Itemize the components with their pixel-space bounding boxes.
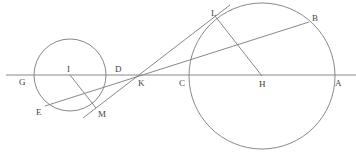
tangent-line [83, 5, 230, 118]
label-I: I [67, 64, 70, 74]
label-D: D [115, 64, 122, 74]
label-E: E [36, 107, 42, 117]
label-L: L [211, 8, 217, 18]
label-H: H [259, 79, 266, 89]
label-A: A [335, 78, 342, 88]
radius-HL [215, 16, 262, 76]
label-C: C [179, 78, 185, 88]
label-K: K [138, 78, 145, 88]
label-B: B [312, 13, 318, 23]
label-M: M [98, 109, 106, 119]
geometry-diagram: G I D K C H A L B E M [0, 0, 356, 152]
radius-IM [70, 75, 96, 108]
label-G: G [19, 77, 26, 87]
